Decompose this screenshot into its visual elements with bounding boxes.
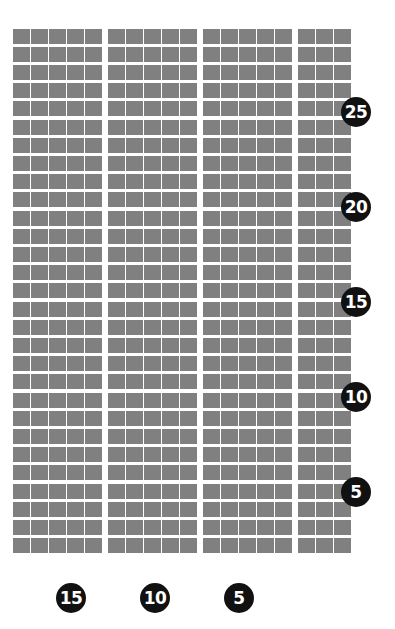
grid-column xyxy=(49,29,66,553)
grid-cell xyxy=(316,447,333,462)
grid-cell xyxy=(257,156,274,171)
grid-cell xyxy=(203,283,220,298)
row-group xyxy=(108,302,125,389)
grid-cell xyxy=(85,429,102,444)
grid-cell xyxy=(49,338,66,353)
grid-cell xyxy=(162,429,179,444)
grid-cell xyxy=(239,283,256,298)
row-group xyxy=(221,484,238,553)
row-group xyxy=(257,393,274,480)
grid-cell xyxy=(85,411,102,426)
y-axis-badge-25: 25 xyxy=(341,97,371,127)
grid-cell xyxy=(298,320,315,335)
grid-cell xyxy=(162,447,179,462)
grid-cell xyxy=(49,429,66,444)
grid-cell xyxy=(67,174,84,189)
grid-cell xyxy=(13,538,30,553)
row-group xyxy=(85,484,102,553)
row-group xyxy=(239,484,256,553)
x-axis-badge-15: 15 xyxy=(56,583,86,613)
grid-cell xyxy=(298,520,315,535)
grid-cell xyxy=(180,520,197,535)
grid-cell xyxy=(144,502,161,517)
row-group xyxy=(108,120,125,207)
grid-cell xyxy=(108,429,125,444)
grid-cell xyxy=(203,101,220,116)
grid-cell xyxy=(144,65,161,80)
grid-cell xyxy=(316,484,333,499)
row-group xyxy=(13,211,30,298)
grid-cell xyxy=(144,47,161,62)
grid-cell xyxy=(31,211,48,226)
grid-cell xyxy=(49,192,66,207)
grid-column xyxy=(67,29,84,553)
grid-cell xyxy=(144,538,161,553)
grid-cell xyxy=(221,138,238,153)
grid-cell xyxy=(67,156,84,171)
grid-cell xyxy=(203,211,220,226)
grid-cell xyxy=(162,538,179,553)
grid-cell xyxy=(334,411,351,426)
grid-cell xyxy=(126,174,143,189)
grid-cell xyxy=(298,83,315,98)
grid-cell xyxy=(67,356,84,371)
grid-cell xyxy=(67,484,84,499)
grid-cell xyxy=(203,538,220,553)
grid-cell xyxy=(13,484,30,499)
grid-cell xyxy=(31,484,48,499)
grid-cell xyxy=(257,101,274,116)
grid-cell xyxy=(239,47,256,62)
grid-cell xyxy=(257,338,274,353)
row-group xyxy=(31,484,48,553)
grid-cell xyxy=(239,520,256,535)
grid-cell xyxy=(162,338,179,353)
grid-cell xyxy=(275,83,292,98)
grid-cell xyxy=(316,174,333,189)
grid-cell xyxy=(239,502,256,517)
grid-cell xyxy=(85,393,102,408)
row-group xyxy=(180,393,197,480)
grid-cell xyxy=(67,211,84,226)
grid-cell xyxy=(108,229,125,244)
grid-cell xyxy=(144,229,161,244)
grid-cell xyxy=(49,83,66,98)
grid-cell xyxy=(85,465,102,480)
grid-cell xyxy=(49,356,66,371)
row-group xyxy=(49,120,66,207)
grid-cell xyxy=(31,229,48,244)
row-group xyxy=(203,211,220,298)
grid-cell xyxy=(13,101,30,116)
grid-cell xyxy=(144,283,161,298)
grid-cell xyxy=(108,502,125,517)
grid-cell xyxy=(203,356,220,371)
row-group xyxy=(180,302,197,389)
grid-cell xyxy=(144,83,161,98)
grid-cell xyxy=(49,520,66,535)
row-group xyxy=(203,302,220,389)
grid-cell xyxy=(31,447,48,462)
grid-cell xyxy=(298,29,315,44)
grid-cell xyxy=(126,229,143,244)
grid-cell xyxy=(126,465,143,480)
grid-cell xyxy=(13,411,30,426)
grid-cell xyxy=(203,447,220,462)
grid-cell xyxy=(275,338,292,353)
grid-cell xyxy=(144,520,161,535)
grid-cell xyxy=(239,302,256,317)
y-axis-badge-20: 20 xyxy=(341,192,371,222)
grid-cell xyxy=(239,356,256,371)
grid-cell xyxy=(162,302,179,317)
grid-cell xyxy=(49,65,66,80)
grid-cell xyxy=(298,393,315,408)
grid-cell xyxy=(67,447,84,462)
grid-cell xyxy=(180,338,197,353)
grid-cell xyxy=(31,393,48,408)
row-group xyxy=(144,393,161,480)
grid-cell xyxy=(203,429,220,444)
grid-cell xyxy=(239,101,256,116)
y-axis-badge-15: 15 xyxy=(341,287,371,317)
grid-cell xyxy=(221,101,238,116)
grid-cell xyxy=(257,356,274,371)
grid-cell xyxy=(257,520,274,535)
grid-cell xyxy=(85,484,102,499)
